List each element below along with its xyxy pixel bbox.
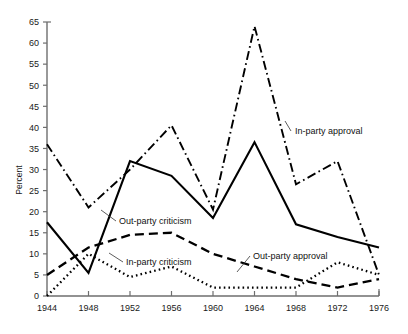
x-axis: 194419481952195619601964196819721976 bbox=[37, 289, 389, 313]
annotation-label-in-party-criticism: In-party criticism bbox=[126, 257, 192, 267]
y-tick-label: 30 bbox=[29, 165, 39, 175]
y-tick-label: 65 bbox=[29, 17, 39, 27]
series-line-in-party-approval bbox=[47, 26, 379, 275]
x-tick-label: 1952 bbox=[120, 303, 140, 313]
y-tick-label: 40 bbox=[29, 123, 39, 133]
y-tick-label: 0 bbox=[34, 291, 39, 301]
annotation-leader-in-party-approval bbox=[285, 121, 291, 131]
x-tick-label: 1948 bbox=[78, 303, 98, 313]
y-tick-label: 50 bbox=[29, 81, 39, 91]
series-line-in-party-criticism bbox=[47, 254, 379, 296]
y-tick-label: 55 bbox=[29, 59, 39, 69]
y-tick-label: 5 bbox=[34, 270, 39, 280]
annotation-label-out-party-approval: Out-party approval bbox=[253, 251, 328, 261]
y-tick-label: 35 bbox=[29, 144, 39, 154]
y-tick-label: 20 bbox=[29, 207, 39, 217]
y-axis: 05101520253035404550556065 bbox=[29, 17, 51, 301]
x-tick-label: 1944 bbox=[37, 303, 57, 313]
y-tick-label: 60 bbox=[29, 38, 39, 48]
x-tick-label: 1964 bbox=[244, 303, 264, 313]
chart-container: 05101520253035404550556065 1944194819521… bbox=[0, 0, 408, 334]
y-tick-label: 15 bbox=[29, 228, 39, 238]
annotation-label-in-party-approval: In-party approval bbox=[295, 126, 363, 136]
line-chart: 05101520253035404550556065 1944194819521… bbox=[0, 0, 408, 334]
x-tick-label: 1968 bbox=[286, 303, 306, 313]
x-tick-label: 1972 bbox=[327, 303, 347, 313]
y-tick-label: 25 bbox=[29, 186, 39, 196]
annotation-layer: In-party approvalOut-party criticismIn-p… bbox=[101, 121, 363, 272]
series-layer bbox=[47, 26, 379, 296]
x-tick-label: 1956 bbox=[161, 303, 181, 313]
annotation-label-out-party-criticism: Out-party criticism bbox=[119, 216, 192, 226]
y-tick-label: 10 bbox=[29, 249, 39, 259]
x-tick-label: 1960 bbox=[203, 303, 223, 313]
annotation-leader-in-party-criticism bbox=[109, 253, 123, 262]
y-tick-label: 45 bbox=[29, 102, 39, 112]
x-tick-label: 1976 bbox=[369, 303, 389, 313]
series-line-out-party-approval bbox=[47, 233, 379, 288]
y-axis-title: Percent bbox=[14, 165, 24, 195]
